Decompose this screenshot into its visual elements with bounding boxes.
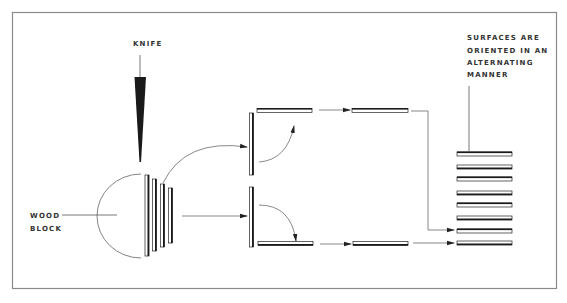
lower-plate-1 bbox=[258, 242, 313, 246]
knife-label: KNIFE bbox=[133, 40, 162, 48]
surfaces-label-line2: ORIENTED IN AN bbox=[467, 47, 548, 55]
veneer-diagram: KNIFE WOOD BLOCK bbox=[0, 0, 567, 303]
arrow-curve-to-upper-plate bbox=[163, 146, 247, 184]
rotate-arrow-up bbox=[259, 126, 294, 162]
upper-plate-1 bbox=[257, 108, 312, 113]
arrow-upper-to-stack bbox=[411, 111, 454, 230]
upper-vertical-plate bbox=[250, 113, 254, 175]
wood-block bbox=[97, 174, 141, 258]
wood-block-label-line2: BLOCK bbox=[30, 225, 62, 233]
surfaces-label-line1: SURFACES ARE bbox=[467, 34, 540, 42]
alternating-stack bbox=[457, 152, 512, 246]
cut-slices bbox=[145, 175, 173, 256]
lower-vertical-plate bbox=[250, 187, 254, 247]
knife-icon bbox=[135, 77, 147, 162]
rotate-arrow-down bbox=[259, 205, 296, 241]
upper-plate-2 bbox=[352, 108, 408, 113]
lower-plate-2 bbox=[353, 242, 408, 246]
wood-block-label-line1: WOOD bbox=[30, 212, 60, 220]
surfaces-label-line3: ALTERNATING bbox=[467, 59, 534, 67]
surfaces-label-line4: MANNER bbox=[467, 71, 508, 79]
